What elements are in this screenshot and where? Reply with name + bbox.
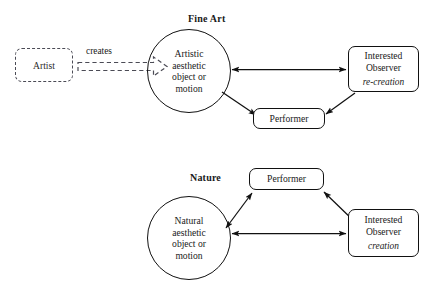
creates-edge-label: creates (86, 46, 112, 56)
observer-label-line-1-nature: Interested (365, 214, 403, 226)
natural-aesthetic-object-node[interactable]: Natural aesthetic object or motion (147, 196, 231, 280)
edge-art-performer (222, 92, 256, 115)
artistic-line-1: Artistic (175, 48, 204, 60)
panel-title-fine-art: Fine Art (188, 13, 225, 24)
artistic-line-3: object or (172, 71, 206, 83)
observer-label-line-1: Interested (365, 50, 403, 62)
natural-line-1: Natural (175, 215, 204, 227)
natural-line-4: motion (175, 250, 202, 262)
edge-nature-performer (226, 193, 252, 228)
performer-label-nature: Performer (267, 173, 306, 185)
panel-title-nature: Nature (190, 172, 221, 183)
observer-label-line-2: Observer (366, 62, 401, 74)
performer-label: Performer (270, 113, 309, 125)
artistic-line-4: motion (175, 83, 202, 95)
artist-node[interactable]: Artist (15, 48, 73, 82)
performer-node-fine-art[interactable]: Performer (253, 108, 325, 129)
artistic-aesthetic-object-node[interactable]: Artistic aesthetic object or motion (147, 29, 231, 113)
performer-node-nature[interactable]: Performer (249, 168, 324, 190)
observer-label-line-2-nature: Observer (366, 226, 401, 238)
natural-line-2: aesthetic (172, 227, 206, 239)
diagram-canvas: Fine Art Artist creates Artistic aesthet… (0, 0, 430, 292)
artistic-line-2: aesthetic (172, 60, 206, 72)
interested-observer-node-nature[interactable]: Interested Observer creation (348, 209, 419, 257)
artist-label: Artist (33, 60, 55, 71)
natural-line-3: object or (172, 238, 206, 250)
observer-emphasis-creation: creation (368, 240, 399, 252)
edge-observer-performer (326, 93, 355, 114)
observer-emphasis-re-creation: re-creation (363, 76, 404, 88)
interested-observer-node-fine-art[interactable]: Interested Observer re-creation (348, 46, 419, 92)
